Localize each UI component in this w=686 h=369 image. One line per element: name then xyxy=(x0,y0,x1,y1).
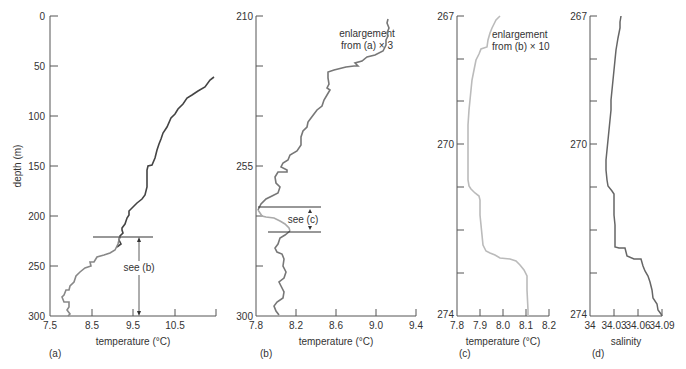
ylabel-a: depth (m) xyxy=(12,145,23,188)
curve-d xyxy=(606,16,662,316)
ytick-b-255: 255 xyxy=(236,161,253,172)
panel-c: 267 270 274 7.8 7.9 8.0 8.1 8.2 temperat… xyxy=(437,11,556,359)
arrow-up-icon xyxy=(308,209,312,213)
panel-d: 267 270 274 34 34.03 34.06 34.09 salinit… xyxy=(570,11,675,359)
ytick-c-274: 274 xyxy=(437,309,454,320)
xtick-b-8.2: 8.2 xyxy=(289,320,303,331)
xtick-c-7.9: 7.9 xyxy=(473,320,487,331)
xtick-b-8.6: 8.6 xyxy=(329,320,343,331)
ytick-d-267: 267 xyxy=(570,11,587,22)
annotation-c-1: enlargement xyxy=(492,29,548,40)
annotation-c-2: from (b) × 10 xyxy=(492,41,550,52)
ytick-c-270: 270 xyxy=(437,139,454,150)
arrow-up-icon xyxy=(137,237,141,242)
xtick-a-7.5: 7.5 xyxy=(43,320,57,331)
xtick-c-7.8: 7.8 xyxy=(450,320,464,331)
xtick-a-9.5: 9.5 xyxy=(126,320,140,331)
xtick-c-8.1: 8.1 xyxy=(519,320,533,331)
ytick-a-100: 100 xyxy=(28,111,45,122)
panel-label-d: (d) xyxy=(592,348,604,359)
xlabel-a: temperature (°C) xyxy=(96,336,171,347)
panel-a: 0 50 100 150 200 250 300 7.5 8.5 9.5 10.… xyxy=(12,11,216,359)
ytick-d-270: 270 xyxy=(570,139,587,150)
ytick-a-50: 50 xyxy=(34,61,46,72)
panel-b: 210 255 300 7.8 8.2 8.6 9.0 9.4 temperat… xyxy=(236,11,423,359)
panel-label-a: (a) xyxy=(49,348,61,359)
figure: 0 50 100 150 200 250 300 7.5 8.5 9.5 10.… xyxy=(0,0,686,369)
xtick-b-9.4: 9.4 xyxy=(409,320,423,331)
xtick-a-10.5: 10.5 xyxy=(165,320,185,331)
curve-c xyxy=(468,16,528,316)
xtick-a-8.5: 8.5 xyxy=(85,320,99,331)
ytick-a-150: 150 xyxy=(28,161,45,172)
xtick-d-34.06: 34.06 xyxy=(625,320,650,331)
arrow-down-icon xyxy=(308,226,312,230)
xtick-d-34.09: 34.09 xyxy=(649,320,674,331)
xtick-d-34: 34 xyxy=(584,320,596,331)
curve-a-upper xyxy=(117,77,214,247)
xtick-b-9.0: 9.0 xyxy=(369,320,383,331)
curve-b-bottom xyxy=(274,231,290,315)
xtick-c-8.0: 8.0 xyxy=(496,320,510,331)
see-c-label: see (c) xyxy=(288,214,319,225)
xlabel-d: salinity xyxy=(611,336,642,347)
panel-label-b: (b) xyxy=(260,348,272,359)
ytick-c-267: 267 xyxy=(437,11,454,22)
xtick-b-7.8: 7.8 xyxy=(249,320,263,331)
ytick-a-200: 200 xyxy=(28,211,45,222)
xlabel-b: temperature (°C) xyxy=(299,336,374,347)
xlabel-c: temperature (°C) xyxy=(466,336,541,347)
curve-a-lower xyxy=(62,236,120,316)
ytick-b-210: 210 xyxy=(236,11,253,22)
arrow-down-icon xyxy=(137,311,141,316)
ytick-a-0: 0 xyxy=(39,11,45,22)
ytick-d-274: 274 xyxy=(570,309,587,320)
xtick-d-34.03: 34.03 xyxy=(601,320,626,331)
ytick-a-250: 250 xyxy=(28,261,45,272)
curve-b-lower xyxy=(258,210,290,231)
panel-label-c: (c) xyxy=(459,348,471,359)
xtick-c-8.2: 8.2 xyxy=(542,320,556,331)
see-b-label: see (b) xyxy=(123,262,154,273)
